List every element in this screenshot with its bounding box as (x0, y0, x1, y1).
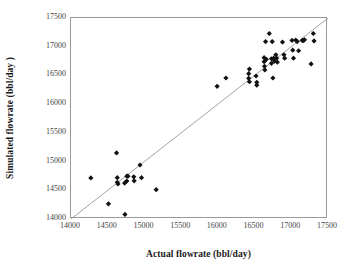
data-point (311, 38, 316, 43)
data-point (246, 71, 251, 76)
data-point (215, 84, 220, 89)
data-point (291, 56, 296, 61)
data-point (254, 83, 259, 88)
data-point (223, 75, 228, 80)
data-point (247, 79, 252, 84)
y-axis-tick-label: 16000 (24, 98, 66, 107)
data-point (106, 201, 111, 206)
data-point-group (88, 31, 316, 217)
y-axis-tick-label: 15000 (24, 156, 66, 165)
data-point (311, 31, 316, 36)
data-point (267, 31, 272, 36)
y-axis-tick-label: 14500 (24, 184, 66, 193)
x-axis-title-text: Actual flowrate (bbl/day) (70, 249, 327, 259)
data-point (253, 73, 258, 78)
data-point (296, 48, 301, 53)
data-point (114, 150, 119, 155)
data-point (263, 39, 268, 44)
data-point (122, 212, 127, 217)
data-point (247, 67, 252, 72)
data-point (262, 67, 267, 72)
data-point (139, 175, 144, 180)
data-point (282, 56, 287, 61)
y-axis-tick-label: 17000 (24, 41, 66, 50)
plot-canvas (71, 18, 328, 219)
y-axis-tick-label: 15500 (24, 127, 66, 136)
y-axis-title-text: Simulated flowrate (bbl/day ) (5, 57, 15, 179)
y-axis-tick-label: 16500 (24, 69, 66, 78)
data-point (309, 61, 314, 66)
x-axis-tick-label: 17500 (305, 221, 349, 230)
data-point (270, 39, 275, 44)
y-axis-title: Simulated flowrate (bbl/day ) (2, 17, 18, 218)
data-point (270, 75, 275, 80)
scatter-chart-figure: Simulated flowrate (bbl/day ) 1400014500… (0, 0, 349, 275)
data-point (290, 48, 295, 53)
plot-area (70, 17, 327, 218)
data-point (88, 175, 93, 180)
data-point (154, 187, 159, 192)
data-point (132, 178, 137, 183)
data-point (115, 175, 120, 180)
y-axis-tick-label: 17500 (24, 12, 66, 21)
data-point (280, 40, 285, 45)
parity-reference-line (71, 18, 328, 219)
